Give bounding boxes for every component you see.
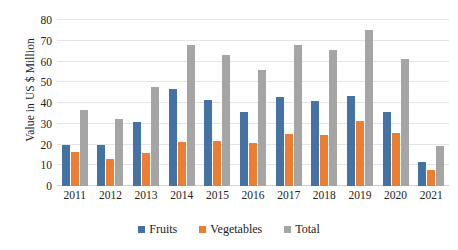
bar-fruits-2012 [97,145,105,187]
bar-group-2021 [413,20,449,186]
bar-chart: Value in US $ Million 01020304050607080 … [0,0,458,250]
bar-fruits-2021 [418,162,426,186]
bar-vegetables-2014 [178,142,186,186]
bar-group-2017 [271,20,307,186]
bar-fruits-2020 [383,112,391,186]
legend-item-fruits[interactable]: Fruits [138,222,177,237]
y-axis-tick-label: 60 [2,56,52,68]
y-axis-tick-label: 70 [2,35,52,47]
bar-fruits-2015 [204,100,212,186]
x-axis-tick-label-2013: 2013 [128,189,164,201]
x-axis-tick-label-2017: 2017 [271,189,307,201]
bar-total-2018 [329,50,337,186]
y-axis-tick-label: 30 [2,118,52,130]
bar-fruits-2011 [62,145,70,187]
bar-vegetables-2016 [249,143,257,186]
legend-label: Vegetables [210,222,262,237]
bar-total-2021 [436,146,444,186]
bar-group-2011 [57,20,93,186]
x-axis-tick-label-2016: 2016 [235,189,271,201]
chart-legend: FruitsVegetablesTotal [0,222,458,237]
y-axis-tick-labels: 01020304050607080 [0,20,52,186]
bar-fruits-2016 [240,112,248,186]
bar-group-2020 [378,20,414,186]
bar-total-2017 [294,45,302,186]
y-axis-tick-label: 20 [2,139,52,151]
bar-group-2015 [200,20,236,186]
bar-vegetables-2012 [106,159,114,186]
bar-group-2019 [342,20,378,186]
bar-vegetables-2019 [356,121,364,186]
y-axis-tick-label: 50 [2,76,52,88]
legend-item-total[interactable]: Total [284,222,320,237]
y-axis-tick-label: 10 [2,159,52,171]
bar-group-2016 [235,20,271,186]
y-axis-tick-label: 0 [2,180,52,192]
bar-fruits-2017 [276,97,284,186]
bar-group-2018 [306,20,342,186]
x-axis-tick-label-2019: 2019 [342,189,378,201]
x-axis-tick-label-2015: 2015 [200,189,236,201]
bar-fruits-2018 [311,101,319,186]
x-axis-tick-label-2014: 2014 [164,189,200,201]
bar-total-2020 [401,59,409,186]
legend-swatch-icon [284,226,291,233]
bar-total-2013 [151,87,159,186]
legend-swatch-icon [138,226,145,233]
legend-item-vegetables[interactable]: Vegetables [199,222,262,237]
bar-total-2019 [365,30,373,186]
y-axis-tick-label: 40 [2,97,52,109]
bar-vegetables-2017 [285,134,293,186]
bar-total-2011 [80,110,88,186]
bar-total-2012 [115,119,123,186]
legend-label: Fruits [149,222,177,237]
x-axis-tick-label-2020: 2020 [378,189,414,201]
x-axis-tick-labels: 2011201220132014201520162017201820192020… [57,189,449,201]
bar-fruits-2013 [133,122,141,186]
bar-fruits-2014 [169,89,177,186]
legend-label: Total [295,222,320,237]
bar-vegetables-2018 [320,135,328,186]
legend-swatch-icon [199,226,206,233]
bar-fruits-2019 [347,96,355,186]
bar-total-2016 [258,70,266,186]
bar-vegetables-2011 [71,152,79,186]
bar-group-2014 [164,20,200,186]
y-axis-tick-label: 80 [2,14,52,26]
bar-vegetables-2020 [392,133,400,186]
x-axis-tick-label-2018: 2018 [306,189,342,201]
x-axis-tick-label-2012: 2012 [93,189,129,201]
bar-vegetables-2015 [213,141,221,186]
x-axis-tick-label-2021: 2021 [413,189,449,201]
bar-total-2015 [222,55,230,186]
bars-layer [57,20,449,186]
bar-vegetables-2021 [427,170,435,186]
bar-group-2013 [128,20,164,186]
x-axis-tick-label-2011: 2011 [57,189,93,201]
bar-vegetables-2013 [142,153,150,186]
bar-total-2014 [187,45,195,186]
bar-group-2012 [93,20,129,186]
